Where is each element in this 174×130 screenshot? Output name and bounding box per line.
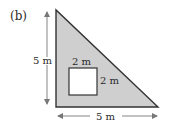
- panel-label: (b): [10, 9, 27, 23]
- square-width-label: 2 m: [72, 56, 92, 67]
- base-label: 5 m: [96, 111, 116, 122]
- triangle-diagram: (b) 5 m 2 m 2 m 5 m: [0, 0, 174, 130]
- height-label: 5 m: [33, 55, 53, 66]
- square-height-label: 2 m: [100, 75, 120, 86]
- square-hole: [69, 68, 97, 95]
